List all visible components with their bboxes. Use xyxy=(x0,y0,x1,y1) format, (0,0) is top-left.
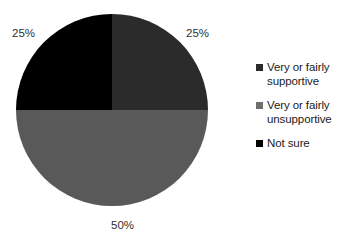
pie-slice-unsupportive[interactable] xyxy=(16,110,208,206)
pie-plot-area xyxy=(16,14,208,206)
data-label-supportive: 25% xyxy=(186,27,209,40)
pie-chart-figure: 25% 25% 50% Very or fairly supportive Ve… xyxy=(0,0,355,237)
legend-item-unsupportive[interactable]: Very or fairly unsupportive xyxy=(256,99,352,126)
chart-title xyxy=(0,0,250,5)
pie-svg xyxy=(16,14,208,206)
legend-label-unsupportive: Very or fairly unsupportive xyxy=(267,99,352,126)
legend-swatch-icon-not-sure xyxy=(256,140,263,147)
data-label-unsupportive: 50% xyxy=(111,219,134,232)
legend-label-not-sure: Not sure xyxy=(267,137,310,151)
legend-label-supportive: Very or fairly supportive xyxy=(267,61,352,88)
legend-item-not-sure[interactable]: Not sure xyxy=(256,137,352,151)
chart-legend: Very or fairly supportive Very or fairly… xyxy=(256,61,352,162)
data-label-not-sure: 25% xyxy=(12,27,35,40)
legend-swatch-icon-unsupportive xyxy=(256,102,263,109)
legend-item-supportive[interactable]: Very or fairly supportive xyxy=(256,61,352,88)
legend-swatch-icon-supportive xyxy=(256,64,263,71)
